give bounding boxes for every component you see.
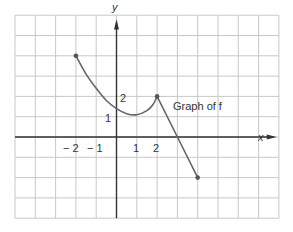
x-axis-label: x xyxy=(257,131,264,143)
axes xyxy=(15,19,277,218)
y-axis-label: y xyxy=(111,1,119,13)
x-tick-label-2: 2 xyxy=(153,142,159,154)
graph-caption: Graph of f xyxy=(173,100,223,112)
grid-lines xyxy=(15,15,279,218)
x-tick-label-neg1: − 1 xyxy=(87,142,103,154)
function-graph: y x Graph of f − 2 − 1 1 2 1 2 xyxy=(0,0,293,232)
y-tick-label-2: 2 xyxy=(120,92,126,104)
y-tick-label-1: 1 xyxy=(105,112,111,124)
x-tick-label-neg2: − 2 xyxy=(63,142,79,154)
x-tick-label-1: 1 xyxy=(133,142,139,154)
